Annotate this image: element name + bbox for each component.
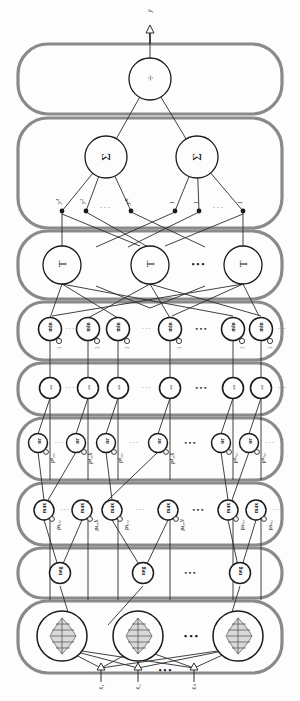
ellipsis-neg: • • • xyxy=(178,569,202,577)
weight-label-y1: y¹ xyxy=(50,198,66,205)
node-label-implication-2: ⇔ xyxy=(81,383,95,392)
weight-dot-oneM xyxy=(241,209,246,214)
node-label-max-6: max xyxy=(250,505,263,511)
node-label-or-2: or xyxy=(70,438,83,444)
ellipsis-imp-a: · · · xyxy=(62,385,78,391)
node-label-sigma-1: Σ xyxy=(95,149,117,165)
max-edge-label-1: pᴀ₁,₁ xyxy=(46,522,70,528)
max-edge-label-2: pᴀ₁,K xyxy=(84,522,108,528)
ellipsis-imp-b: · · · xyxy=(136,385,156,391)
input-label-xn: x̄ₙ xyxy=(186,683,202,691)
ellipsis-or-c: • • • xyxy=(178,439,202,447)
or-port-1 xyxy=(44,450,49,455)
max-port-3 xyxy=(118,517,123,522)
ellipsis-one-weights: · · · xyxy=(208,204,228,212)
node-label-or-4: or xyxy=(152,438,165,444)
node-label-tnorm-3: T xyxy=(233,258,253,270)
min-port-label-3: 1 xyxy=(121,345,133,351)
or-edge-label-3: pᴬ₁,₁ xyxy=(108,455,132,461)
node-label-implication-6: ⇔ xyxy=(254,383,268,392)
weight-dot-one1 xyxy=(173,209,178,214)
max-port-5 xyxy=(234,517,239,522)
container-layer-2-max xyxy=(18,483,282,545)
ellipsis-or-d: · · · xyxy=(262,440,278,446)
or-port-3 xyxy=(112,450,117,455)
ellipsis-max-a: · · · xyxy=(57,507,73,513)
max-edge-label-3: pᴀ₁,₁ xyxy=(114,522,138,528)
node-label-min-3: min xyxy=(111,324,125,330)
max-edge-label-5: pᴀₙ,₁ xyxy=(230,522,254,528)
ellipsis-min-b: · · · xyxy=(136,326,156,332)
min-port-label-5: 1 xyxy=(236,345,248,351)
max-edge-label-6: pᴀₙ,₂ xyxy=(258,522,282,528)
node-label-or-1: or xyxy=(32,438,45,444)
node-label-neg-3: neg xyxy=(233,568,247,574)
ellipsis-y-weights: · · · xyxy=(95,204,115,212)
ellipsis-imp-d: · · · xyxy=(274,385,290,391)
ellipsis-imp-c: • • • xyxy=(189,384,213,392)
min-port-3 xyxy=(124,338,129,343)
ellipsis-inputs: • • • xyxy=(152,666,178,675)
node-label-or-3: or xyxy=(100,438,113,444)
ellipsis-or-a: · · · xyxy=(51,440,67,446)
max-port-6 xyxy=(262,517,267,522)
input-label-x2: x̄₂ xyxy=(130,683,146,691)
min-port-6 xyxy=(267,338,272,343)
max-edge-label-4: pᴀ₁,N xyxy=(170,522,194,528)
weight-label-one-2: 1 xyxy=(188,199,204,206)
input-label-x1: x̄₁ xyxy=(93,683,109,691)
or-edge-label-5: pᴬₙ,₁ xyxy=(223,455,247,461)
node-label-implication-5: ⇔ xyxy=(226,383,240,392)
output-label: ŷ xyxy=(139,7,161,15)
max-port-1 xyxy=(50,517,55,522)
node-label-implication-1: ⇔ xyxy=(43,383,57,392)
network-diagram-svg xyxy=(0,0,300,701)
or-edge-label-2: pᴬ₁,K xyxy=(78,455,102,461)
min-port-label-4: 1 xyxy=(173,345,185,351)
ellipsis-min-a: · · · xyxy=(62,326,78,332)
min-port-label-1: 1 xyxy=(53,345,65,351)
diagram-canvas: ŷ ÷ Σ Σ y¹ y² yᴹ 1 1 1 · · · · · · T T … xyxy=(0,0,300,701)
or-edge-label-4: pᴬ₁,K xyxy=(160,455,184,461)
node-label-implication-3: ⇔ xyxy=(111,383,125,392)
ellipsis-tnorm: • • • xyxy=(186,260,210,269)
or-edge-label-6: pᴬₙ,₂ xyxy=(251,455,275,461)
min-port-1 xyxy=(56,338,61,343)
node-label-division: ÷ xyxy=(139,72,161,84)
node-label-min-4: min xyxy=(163,324,177,330)
node-label-max-2: max xyxy=(76,505,89,511)
node-label-neg-1: neg xyxy=(53,568,67,574)
node-label-sigma-2: Σ xyxy=(186,149,208,165)
ellipsis-membership: • • • xyxy=(178,631,204,641)
node-label-tnorm-1: T xyxy=(52,258,72,270)
node-label-min-6: min xyxy=(254,324,268,330)
node-label-tnorm-2: T xyxy=(140,258,160,270)
ellipsis-min-d: · · · xyxy=(274,326,290,332)
ellipsis-min-c: • • • xyxy=(189,325,213,333)
ellipsis-or-b: · · · xyxy=(124,440,144,446)
or-port-6 xyxy=(255,450,260,455)
node-label-implication-4: ⇔ xyxy=(163,383,177,392)
node-label-max-4: max xyxy=(162,505,175,511)
weight-label-one-1: 1 xyxy=(164,199,180,206)
node-label-max-1: max xyxy=(38,505,51,511)
node-label-min-2: min xyxy=(81,324,95,330)
weight-dot-one2 xyxy=(197,209,202,214)
min-port-label-2: 1 xyxy=(91,345,103,351)
or-port-5 xyxy=(227,450,232,455)
min-port-4 xyxy=(176,338,181,343)
weight-dot-y2 xyxy=(84,209,89,214)
weight-label-y2: y² xyxy=(74,198,90,205)
ellipsis-max-c: • • • xyxy=(186,506,210,514)
output-arrow-yhat xyxy=(146,25,154,44)
min-port-label-6: 1 xyxy=(264,345,276,351)
node-label-neg-2: neg xyxy=(136,568,150,574)
weight-dot-y1 xyxy=(60,209,65,214)
ellipsis-max-d: · · · xyxy=(269,507,285,513)
weight-dot-yM xyxy=(129,209,134,214)
node-label-max-5: max xyxy=(222,505,235,511)
node-label-min-5: min xyxy=(226,324,240,330)
weight-label-one-M: 1 xyxy=(232,199,248,206)
node-label-or-5: or xyxy=(215,438,228,444)
node-label-or-6: or xyxy=(243,438,256,444)
